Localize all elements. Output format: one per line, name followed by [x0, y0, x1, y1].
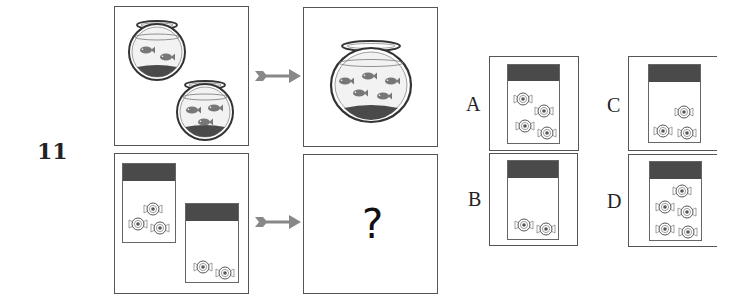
candy-icon [676, 125, 698, 141]
candy-icon [533, 103, 555, 119]
candy-icon [654, 199, 676, 215]
example-right-panel [303, 7, 438, 147]
question-number: 11 [37, 138, 68, 164]
right-arrow-icon [255, 214, 301, 230]
candy-icon [673, 104, 695, 120]
jar-lid [508, 65, 559, 81]
candy-icon [671, 183, 693, 199]
example-left-panel [114, 6, 249, 146]
jar-lid [508, 161, 558, 178]
fishbowl-icon [125, 19, 189, 81]
jar-lid [650, 162, 701, 179]
candy-icon [677, 224, 699, 240]
answer-placeholder-panel: ? [303, 154, 438, 294]
candy-icon [652, 123, 674, 139]
option-a[interactable] [489, 56, 579, 151]
candy-icon [214, 265, 236, 281]
option-a-label: A [466, 93, 480, 116]
jar-lid [649, 65, 700, 82]
candy-icon [654, 221, 676, 237]
option-c-label: C [607, 94, 620, 117]
candy-icon [535, 221, 557, 237]
right-arrow-icon [255, 68, 301, 84]
candy-icon [127, 216, 149, 232]
candy-jar [648, 64, 701, 143]
option-d[interactable] [628, 154, 717, 247]
candy-icon [676, 204, 698, 220]
fishbowl-icon [173, 79, 237, 141]
option-b[interactable] [489, 153, 578, 246]
candy-icon [536, 125, 558, 141]
candy-jar [507, 160, 559, 240]
candy-jar [122, 163, 176, 243]
candy-icon [514, 118, 536, 134]
candy-icon [192, 259, 214, 275]
candy-jar [507, 64, 560, 144]
candy-icon [149, 220, 171, 236]
option-d-label: D [607, 190, 621, 213]
question-left-panel [114, 153, 249, 294]
candy-icon [142, 201, 164, 217]
jar-lid [123, 164, 175, 181]
option-c[interactable] [628, 56, 717, 151]
candy-jar [649, 161, 702, 241]
jar-lid [186, 204, 238, 221]
candy-icon [512, 91, 534, 107]
option-b-label: B [468, 188, 481, 211]
candy-icon [513, 217, 535, 233]
fishbowl-icon [326, 38, 416, 124]
candy-jar [185, 203, 239, 283]
question-mark: ? [362, 201, 383, 247]
